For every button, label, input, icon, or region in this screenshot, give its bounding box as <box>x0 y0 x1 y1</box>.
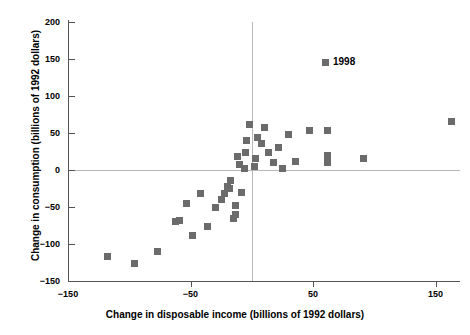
plot-area <box>68 22 460 281</box>
scatter-point <box>238 189 245 196</box>
x-axis-tick <box>436 281 437 287</box>
scatter-point <box>258 140 265 147</box>
scatter-point <box>265 149 272 156</box>
x-axis-tick-label: 150 <box>416 289 456 299</box>
y-axis-tick <box>68 22 75 23</box>
scatter-point <box>324 127 331 134</box>
y-axis-tick-label: 100 <box>20 91 60 101</box>
scatter-point <box>292 158 299 165</box>
scatter-point <box>104 253 111 260</box>
scatter-point <box>232 211 239 218</box>
scatter-point <box>227 177 234 184</box>
x-axis-tick-label: 50 <box>293 289 333 299</box>
y-axis-tick <box>68 281 75 282</box>
legend-swatch-icon <box>322 59 329 66</box>
scatter-point <box>226 185 233 192</box>
scatter-point <box>251 163 258 170</box>
scatter-point <box>176 217 183 224</box>
y-axis-tick <box>68 207 75 208</box>
y-axis-tick-label: 0 <box>20 165 60 175</box>
y-axis-tick-label: −150 <box>20 276 60 286</box>
x-axis-tick <box>191 281 192 287</box>
scatter-point <box>252 155 259 162</box>
x-axis-tick-label: −50 <box>171 289 211 299</box>
scatter-point <box>270 159 277 166</box>
scatter-point <box>279 165 286 172</box>
scatter-point <box>306 127 313 134</box>
y-axis-tick-label: −50 <box>20 202 60 212</box>
legend-label: 1998 <box>333 57 355 67</box>
scatter-chart: Change in consumption (billions of 1992 … <box>0 0 470 335</box>
scatter-point <box>360 155 367 162</box>
y-axis-tick-label: 200 <box>20 17 60 27</box>
x-axis-tick-label: −150 <box>48 289 88 299</box>
scatter-point <box>197 190 204 197</box>
zero-reference-line-vertical <box>252 22 253 281</box>
x-axis-label: Change in disposable income (billions of… <box>0 309 470 320</box>
y-axis-tick-label: −100 <box>20 239 60 249</box>
scatter-point <box>242 149 249 156</box>
scatter-point <box>232 202 239 209</box>
scatter-point <box>189 232 196 239</box>
scatter-point <box>243 137 250 144</box>
y-axis-tick-label: 150 <box>20 54 60 64</box>
y-axis-tick <box>68 59 75 60</box>
y-axis-tick <box>68 133 75 134</box>
chart-legend: 1998 <box>322 57 355 67</box>
scatter-point <box>212 204 219 211</box>
scatter-point <box>154 248 161 255</box>
scatter-point <box>204 223 211 230</box>
scatter-point <box>261 124 268 131</box>
y-axis-tick <box>68 96 75 97</box>
x-axis-tick <box>313 281 314 287</box>
scatter-point <box>246 121 253 128</box>
scatter-point <box>131 260 138 267</box>
scatter-point <box>324 152 331 159</box>
scatter-point <box>448 118 455 125</box>
zero-reference-line-horizontal <box>68 170 460 171</box>
scatter-point <box>285 131 292 138</box>
scatter-point <box>183 200 190 207</box>
scatter-point <box>241 165 248 172</box>
y-axis-tick <box>68 244 75 245</box>
x-axis-spine <box>68 281 460 282</box>
y-axis-tick <box>68 170 75 171</box>
y-axis-tick-label: 50 <box>20 128 60 138</box>
scatter-point <box>234 153 241 160</box>
scatter-point <box>275 144 282 151</box>
scatter-point <box>324 159 331 166</box>
